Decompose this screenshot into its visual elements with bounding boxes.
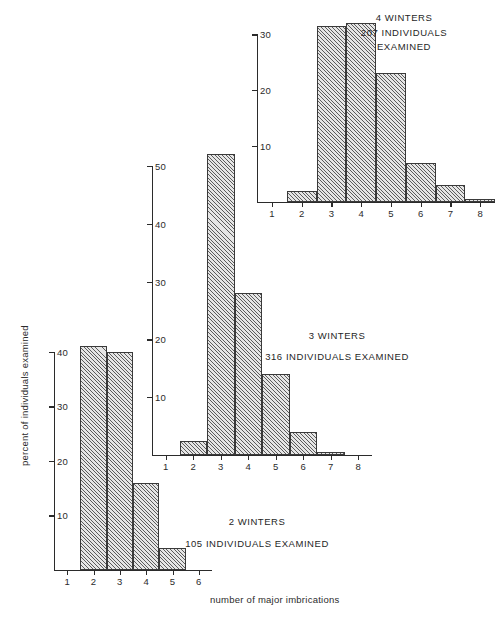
y-axis-tick	[147, 282, 152, 283]
y-axis-tick	[49, 515, 54, 516]
y-axis-tick-label: 20	[260, 85, 271, 96]
y-axis-tick	[147, 224, 152, 225]
histogram-bar	[235, 293, 263, 455]
annotation-3-winters-count: 316 INDIVIDUALS EXAMINED	[265, 351, 409, 362]
annotation-2-winters-count: 105 INDIVIDUALS EXAMINED	[185, 538, 329, 549]
x-axis-tick-label: 6	[301, 461, 306, 472]
x-axis-tick-label: 3	[117, 576, 122, 587]
x-axis-tick-label: 3	[218, 461, 223, 472]
x-axis-tick-label: 7	[328, 461, 333, 472]
y-axis-line	[54, 352, 55, 570]
y-axis-tick-label: 30	[260, 29, 271, 40]
annotation-4-winters-count: 207 INDIVIDUALS	[361, 27, 447, 38]
x-axis-tick	[94, 571, 95, 575]
x-axis-tick-label: 2	[91, 576, 96, 587]
x-axis-title: number of major imbrications	[210, 594, 340, 605]
y-axis-tick-label: 50	[155, 160, 166, 171]
x-axis-tick-label: 8	[477, 208, 482, 219]
y-axis-title: percent of individuals examined	[19, 325, 30, 466]
x-axis-tick	[146, 571, 147, 575]
plot-area-2-winters: 10203040123456	[42, 330, 212, 592]
annotation-3-winters-title: 3 WINTERS	[309, 330, 366, 341]
y-axis-tick-label: 40	[155, 218, 166, 229]
x-axis-tick	[248, 456, 249, 460]
annotation-4-winters-examined: EXAMINED	[377, 41, 431, 52]
x-axis-tick-label: 4	[246, 461, 251, 472]
x-axis-tick-label: 5	[388, 208, 393, 219]
histogram-bar	[107, 352, 133, 570]
y-axis-tick-label: 10	[57, 510, 68, 521]
x-axis-tick-label: 7	[448, 208, 453, 219]
y-axis-tick	[49, 352, 54, 353]
chart-panel-2-winters: 10203040123456	[42, 330, 212, 592]
x-axis-tick	[450, 203, 451, 207]
annotation-4-winters-title: 4 WINTERS	[376, 12, 433, 23]
x-axis-tick	[67, 571, 68, 575]
x-axis-tick	[421, 203, 422, 207]
y-axis-tick-label: 20	[57, 455, 68, 466]
x-axis-tick-label: 5	[170, 576, 175, 587]
histogram-bar	[376, 73, 406, 202]
x-axis-tick	[276, 456, 277, 460]
x-axis-tick	[199, 571, 200, 575]
x-axis-tick-label: 8	[356, 461, 361, 472]
x-axis-tick-label: 4	[143, 576, 148, 587]
histogram-bar	[262, 374, 290, 455]
x-axis-line	[54, 570, 212, 571]
histogram-bar	[406, 163, 436, 202]
x-axis-tick	[221, 456, 222, 460]
histogram-bar	[290, 432, 318, 455]
y-axis-tick-label: 40	[57, 346, 68, 357]
x-axis-tick-label: 5	[273, 461, 278, 472]
y-axis-tick-label: 30	[155, 276, 166, 287]
histogram-bar	[317, 452, 345, 455]
x-axis-tick	[480, 203, 481, 207]
x-axis-tick-label: 1	[64, 576, 69, 587]
y-axis-tick	[49, 406, 54, 407]
histogram-bar	[465, 199, 495, 202]
x-axis-tick	[173, 571, 174, 575]
histogram-bar	[80, 346, 106, 570]
histogram-bar	[133, 483, 159, 570]
histogram-bar	[159, 548, 185, 570]
x-axis-tick	[120, 571, 121, 575]
x-axis-tick	[303, 456, 304, 460]
x-axis-tick-label: 6	[196, 576, 201, 587]
annotation-2-winters-title: 2 WINTERS	[229, 516, 286, 527]
histogram-figure: 10203012345678 4 WINTERS 207 INDIVIDUALS…	[0, 0, 498, 631]
y-axis-tick	[252, 34, 257, 35]
y-axis-tick	[252, 90, 257, 91]
histogram-bar	[436, 185, 466, 202]
x-axis-tick-label: 6	[418, 208, 423, 219]
y-axis-tick	[49, 461, 54, 462]
y-axis-tick-label: 30	[57, 401, 68, 412]
x-axis-tick	[391, 203, 392, 207]
x-axis-tick	[331, 456, 332, 460]
y-axis-tick	[147, 166, 152, 167]
x-axis-tick	[358, 456, 359, 460]
